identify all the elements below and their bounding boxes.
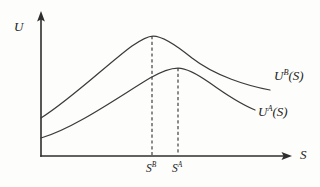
curve-label-ua-argument: (S) (272, 104, 287, 119)
curve-ua (41, 68, 255, 138)
curve-ub (41, 36, 270, 118)
curve-label-ub-argument: (S) (288, 68, 303, 83)
figure-canvas (0, 0, 320, 187)
x-axis-label: S (300, 148, 307, 161)
utility-curves-figure: U S UB(S) UA(S) SB SA (0, 0, 320, 187)
x-tick-label-sa-superscript: A (178, 160, 183, 169)
curve-label-ua-base: U (258, 104, 267, 119)
x-tick-label-sb: SB (146, 163, 156, 175)
x-tick-label-sb-superscript: B (152, 160, 157, 169)
y-axis-label: U (14, 20, 23, 33)
x-tick-label-sa: SA (172, 163, 182, 175)
curve-label-ub-base: U (274, 68, 283, 83)
curve-label-ua: UA(S) (258, 105, 288, 118)
curve-label-ub: UB(S) (274, 69, 304, 82)
